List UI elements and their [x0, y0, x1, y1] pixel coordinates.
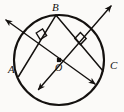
geometry-figure: B A C O [0, 0, 124, 112]
chord-ba [19, 15, 57, 76]
label-center-o: O [55, 63, 62, 73]
label-point-b: B [52, 2, 59, 13]
label-point-c: C [110, 60, 117, 71]
geometry-canvas [0, 0, 124, 112]
label-point-a: A [8, 64, 15, 75]
